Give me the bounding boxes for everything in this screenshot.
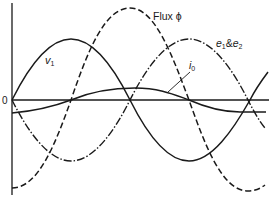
- flux-label: Flux ϕ: [153, 10, 182, 22]
- i0-label: i0: [189, 59, 195, 72]
- i0-leader-line: [168, 72, 190, 92]
- e1-e2-label: e1&e2: [216, 37, 243, 50]
- waveform-diagram: 0 v1 Flux ϕ e1&e2 i0: [0, 0, 272, 198]
- v1-label: v1: [45, 54, 55, 67]
- origin-label: 0: [2, 95, 8, 106]
